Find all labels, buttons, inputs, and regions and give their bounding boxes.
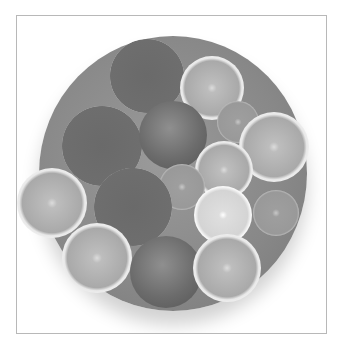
apple-slice [130, 236, 202, 308]
image-frame [16, 15, 327, 334]
lime-slice [253, 190, 299, 236]
orange-slice [62, 223, 132, 293]
orange-slice [193, 234, 261, 302]
fruit-plate-photo [17, 16, 326, 333]
orange-slice [17, 168, 87, 238]
